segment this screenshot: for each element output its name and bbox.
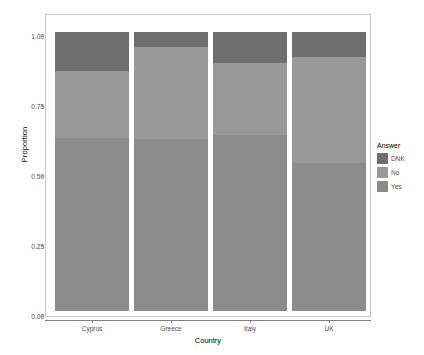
bar-segment-dnk xyxy=(134,32,208,47)
y-tick-mark xyxy=(41,106,44,107)
bar-stack xyxy=(134,32,208,311)
legend-title: Answer xyxy=(377,142,424,149)
bar-segment-no xyxy=(292,57,366,163)
x-tick-mark xyxy=(250,320,251,323)
x-tick-label-italy: Italy xyxy=(215,325,285,332)
bar-stack xyxy=(55,32,129,311)
legend-label-yes: Yes xyxy=(391,183,402,190)
x-axis-line xyxy=(45,320,371,321)
y-axis-title: Proportion xyxy=(20,85,29,205)
x-tick-mark xyxy=(329,320,330,323)
legend-swatch-yes xyxy=(377,181,388,192)
stacked-bar-chart: 0.00 0.25 0.50 0.75 1.00 Proportion Cypr… xyxy=(0,0,424,355)
x-tick-label-cyprus: Cyprus xyxy=(57,325,127,332)
plot-area xyxy=(46,15,370,316)
bar-segment-no xyxy=(213,63,287,136)
y-tick-mark xyxy=(41,36,44,37)
bar-segment-yes xyxy=(55,138,129,311)
legend-item-dnk[interactable]: DNK xyxy=(377,152,424,165)
legend-item-yes[interactable]: Yes xyxy=(377,180,424,193)
legend-label-dnk: DNK xyxy=(391,155,405,162)
x-tick-label-greece: Greece xyxy=(136,325,206,332)
bar-stack xyxy=(213,32,287,311)
bar-segment-no xyxy=(134,47,208,139)
legend-label-no: No xyxy=(391,169,399,176)
x-axis-title: Country xyxy=(45,336,371,345)
bar-segment-dnk xyxy=(292,32,366,57)
y-tick-mark xyxy=(41,176,44,177)
legend: Answer DNK No Yes xyxy=(377,142,424,194)
bar-segment-yes xyxy=(134,139,208,311)
bar-segment-dnk xyxy=(213,32,287,63)
bar-segment-yes xyxy=(292,163,366,311)
bar-stack xyxy=(292,32,366,311)
y-tick-mark xyxy=(41,246,44,247)
bar-segment-yes xyxy=(213,135,287,311)
x-tick-mark xyxy=(92,320,93,323)
bar-segment-dnk xyxy=(55,32,129,71)
x-tick-label-uk: UK xyxy=(294,325,364,332)
bar-segment-no xyxy=(55,71,129,138)
legend-swatch-no xyxy=(377,167,388,178)
x-tick-mark xyxy=(171,320,172,323)
y-tick-mark xyxy=(41,316,44,317)
legend-swatch-dnk xyxy=(377,153,388,164)
legend-item-no[interactable]: No xyxy=(377,166,424,179)
